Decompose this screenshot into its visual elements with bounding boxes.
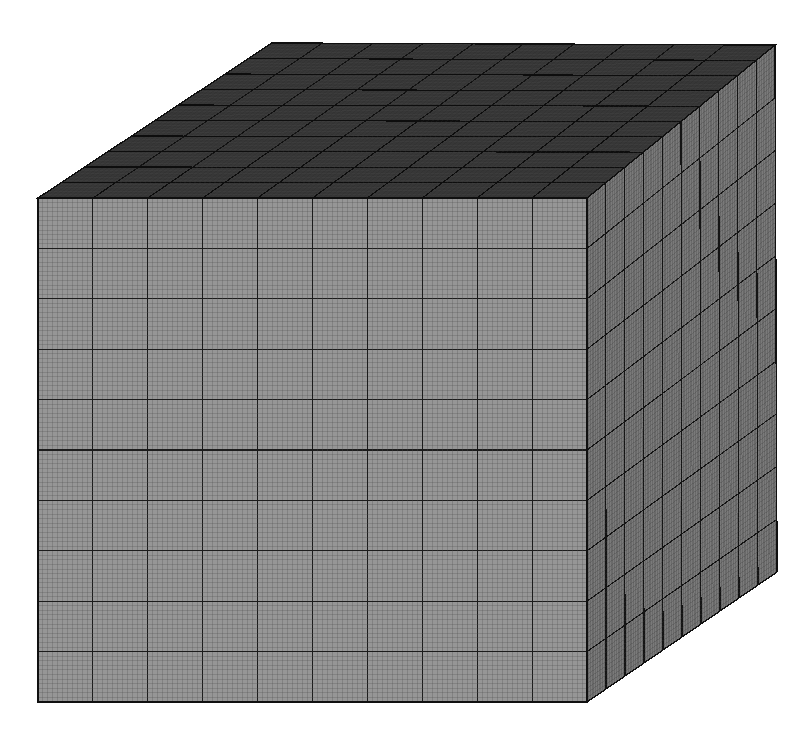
mesh-face-front [38,198,587,702]
mesh-figure-canvas [0,0,806,748]
mesh-cube-svg [0,0,806,748]
